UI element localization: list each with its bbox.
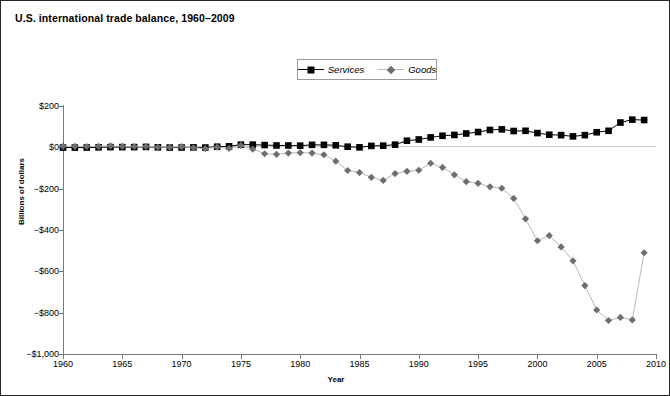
x-tick-label: 1990 [409, 359, 429, 369]
x-tick-mark [656, 354, 657, 359]
y-tick-label: −$800 [34, 308, 59, 318]
legend-label-services: Services [328, 64, 364, 75]
data-point-services [321, 142, 328, 149]
data-point-services [356, 144, 363, 151]
data-point-services [617, 119, 624, 126]
series-line-goods [63, 145, 644, 320]
data-point-services [582, 132, 589, 139]
data-point-services [593, 129, 600, 136]
chart-frame: U.S. international trade balance, 1960–2… [0, 0, 670, 396]
data-point-goods [415, 167, 422, 174]
data-point-services [297, 142, 304, 149]
x-tick-label: 1985 [349, 359, 369, 369]
data-point-services [368, 143, 375, 150]
diamond-marker-icon [387, 65, 395, 73]
data-point-services [261, 142, 268, 149]
data-point-services [499, 126, 506, 133]
data-point-goods [641, 249, 648, 256]
data-point-services [439, 132, 446, 139]
data-point-services [273, 142, 280, 149]
data-point-goods [534, 237, 541, 244]
y-tick-label: −$600 [34, 266, 59, 276]
data-point-goods [261, 150, 268, 157]
x-tick-label: 2010 [646, 359, 666, 369]
data-point-services [332, 142, 339, 149]
x-tick-label: 1975 [231, 359, 251, 369]
legend-item-services: Services [298, 64, 364, 75]
data-point-services [558, 132, 565, 139]
data-point-services [487, 127, 494, 134]
data-point-services [392, 141, 399, 148]
square-marker-icon [307, 66, 314, 73]
series-canvas [63, 106, 656, 354]
data-point-services [309, 142, 316, 149]
data-point-services [522, 128, 529, 135]
x-tick-label: 1995 [468, 359, 488, 369]
data-point-services [605, 128, 612, 135]
x-tick-label: 1970 [172, 359, 192, 369]
data-point-services [570, 133, 577, 140]
data-point-goods [617, 314, 624, 321]
data-point-goods [356, 169, 363, 176]
y-tick-label: −$400 [34, 225, 59, 235]
data-point-goods [403, 168, 410, 175]
data-point-services [463, 130, 470, 137]
x-tick-label: 2000 [527, 359, 547, 369]
data-point-goods [486, 183, 493, 190]
legend-label-goods: Goods [408, 64, 436, 75]
legend-item-goods: Goods [378, 64, 436, 75]
data-point-goods [320, 151, 327, 158]
plot-area [63, 106, 656, 354]
data-point-goods [285, 150, 292, 157]
data-point-services [380, 142, 387, 149]
data-point-services [534, 130, 541, 137]
data-point-services [546, 131, 553, 138]
data-point-services [510, 128, 517, 135]
x-tick-label: 1960 [53, 359, 73, 369]
y-tick-label: −$200 [34, 184, 59, 194]
data-point-services [475, 129, 482, 136]
data-point-goods [581, 282, 588, 289]
data-point-goods [273, 151, 280, 158]
data-point-goods [451, 171, 458, 178]
data-point-goods [308, 150, 315, 157]
y-tick-label: −$1,000 [26, 349, 59, 359]
x-tick-label: 1965 [112, 359, 132, 369]
data-point-goods [439, 164, 446, 171]
data-point-services [416, 136, 423, 143]
x-tick-label: 2005 [587, 359, 607, 369]
data-point-goods [629, 316, 636, 323]
x-axis-title: Year [1, 375, 670, 384]
data-point-goods [427, 160, 434, 167]
data-point-goods [297, 149, 304, 156]
y-tick-label: $200 [39, 101, 59, 111]
legend-line-services [298, 69, 324, 70]
data-point-goods [368, 174, 375, 181]
legend-line-goods [378, 69, 404, 70]
data-point-services [344, 143, 351, 150]
data-point-services [629, 116, 636, 123]
data-point-goods [391, 170, 398, 177]
series-line-services [63, 120, 644, 148]
x-tick-label: 1980 [290, 359, 310, 369]
data-point-services [404, 137, 411, 144]
data-point-services [285, 142, 292, 149]
chart-legend: Services Goods [297, 59, 437, 80]
data-point-services [641, 117, 648, 124]
data-point-services [451, 132, 458, 139]
data-point-goods [522, 215, 529, 222]
y-tick-label: $0 [49, 142, 59, 152]
data-point-goods [475, 180, 482, 187]
data-point-goods [380, 177, 387, 184]
x-axis-line [63, 354, 656, 355]
data-point-services [427, 134, 434, 141]
data-point-goods [463, 178, 470, 185]
y-axis-ticks: $200$0−$200−$400−$600−$800−$1,000 [1, 1, 59, 396]
